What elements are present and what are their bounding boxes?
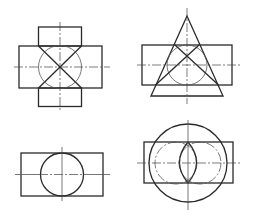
figure-rect-with-large-circle — [137, 120, 242, 210]
technical-drawing — [0, 0, 255, 217]
rect-block — [144, 142, 233, 183]
figure-rect-with-circle — [15, 147, 110, 201]
figure-cross-with-circle — [14, 22, 110, 110]
diagonal-line — [156, 45, 200, 85]
diagonal-line — [175, 45, 219, 85]
figure-triangle-over-rect — [137, 8, 242, 104]
center-point — [59, 66, 61, 68]
